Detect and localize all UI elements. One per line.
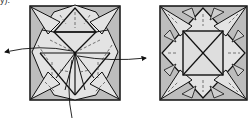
panel-before xyxy=(30,5,120,100)
origami-diagram xyxy=(0,0,248,120)
panel-after xyxy=(160,6,247,100)
